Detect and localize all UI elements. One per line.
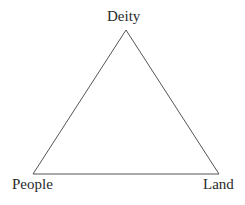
triangle-edges — [33, 30, 219, 174]
triangle-diagram — [0, 0, 245, 205]
node-label-deity: Deity — [107, 9, 140, 24]
node-label-people: People — [12, 177, 53, 192]
node-label-land: Land — [203, 177, 234, 192]
